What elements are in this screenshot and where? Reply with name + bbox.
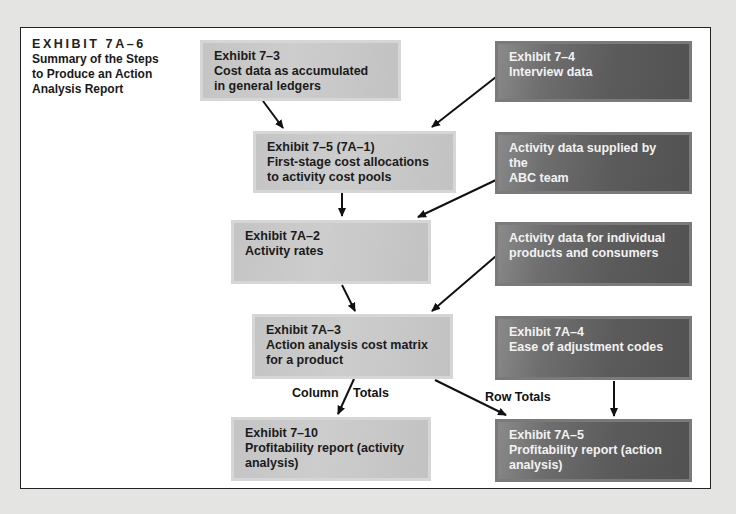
box-report-activity: Exhibit 7–10 Profitability report (activ… bbox=[231, 417, 431, 481]
arrow-rates-to-matrix bbox=[342, 285, 355, 311]
box-line: Profitability report (action bbox=[509, 443, 678, 458]
box-line: ABC team bbox=[509, 171, 678, 186]
box-first-stage: Exhibit 7–5 (7A–1) First-stage cost allo… bbox=[253, 131, 456, 193]
box-report-action: Exhibit 7A–5 Profitability report (actio… bbox=[495, 419, 692, 482]
box-line: to activity cost pools bbox=[267, 170, 442, 185]
box-line: in general ledgers bbox=[214, 79, 387, 94]
box-line: Profitability report (activity bbox=[245, 441, 417, 456]
label-totals: Totals bbox=[353, 386, 389, 400]
box-activity-rates: Exhibit 7A–2 Activity rates bbox=[231, 220, 431, 284]
arrow-products-to-matrix bbox=[432, 256, 496, 311]
box-cost-data: Exhibit 7–3 Cost data as accumulated in … bbox=[200, 40, 401, 101]
box-line: Exhibit 7–4 bbox=[509, 50, 678, 65]
box-line: Interview data bbox=[509, 65, 678, 80]
box-line: analysis) bbox=[245, 456, 417, 471]
arrow-interview-to-first-stage bbox=[432, 77, 496, 127]
box-abc-team: Activity data supplied by the ABC team bbox=[495, 132, 692, 194]
box-individual-products: Activity data for individual products an… bbox=[495, 222, 692, 286]
box-line: Exhibit 7–10 bbox=[245, 426, 417, 441]
box-line: Activity data for individual bbox=[509, 231, 678, 246]
box-line: First-stage cost allocations bbox=[267, 155, 442, 170]
box-line: Action analysis cost matrix bbox=[266, 338, 439, 353]
arrow-column-totals bbox=[338, 379, 354, 414]
arrow-cost-data-to-first-stage bbox=[263, 101, 283, 128]
box-line: analysis) bbox=[509, 458, 678, 473]
box-line: Exhibit 7A–3 bbox=[266, 323, 439, 338]
label-column: Column bbox=[292, 386, 339, 400]
box-line: Exhibit 7A–4 bbox=[509, 325, 678, 340]
box-line: Cost data as accumulated bbox=[214, 64, 387, 79]
box-line: for a product bbox=[266, 353, 439, 368]
box-line: Activity data supplied by the bbox=[509, 141, 678, 171]
box-line: Activity rates bbox=[245, 244, 417, 259]
box-line: Exhibit 7–3 bbox=[214, 49, 387, 64]
box-ease-codes: Exhibit 7A–4 Ease of adjustment codes bbox=[495, 316, 692, 380]
box-line: Exhibit 7–5 (7A–1) bbox=[267, 140, 442, 155]
box-line: Ease of adjustment codes bbox=[509, 340, 678, 355]
box-cost-matrix: Exhibit 7A–3 Action analysis cost matrix… bbox=[252, 314, 453, 379]
label-row-totals: Row Totals bbox=[485, 390, 551, 404]
box-interview-data: Exhibit 7–4 Interview data bbox=[495, 41, 692, 102]
box-line: products and consumers bbox=[509, 246, 678, 261]
box-line: Exhibit 7A–5 bbox=[509, 428, 678, 443]
box-line: Exhibit 7A–2 bbox=[245, 229, 417, 244]
